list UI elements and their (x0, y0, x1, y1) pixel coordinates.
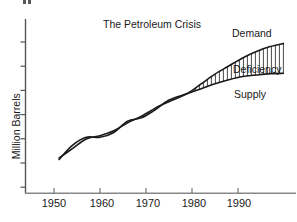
x-axis-ticks (54, 188, 238, 193)
demand-curve (59, 43, 284, 158)
demand-series-label: Demand (232, 28, 272, 39)
x-tick-label-1990: 1990 (222, 198, 256, 209)
petroleum-crisis-chart-figure: The Petroleum Crisis Million Barrels 195… (0, 0, 297, 222)
x-tick-label-1970: 1970 (131, 198, 165, 209)
supply-curve (59, 73, 284, 160)
x-tick-label-1960: 1960 (85, 198, 119, 209)
x-tick-label-1980: 1980 (177, 198, 211, 209)
page-title: The Petroleum Crisis (103, 19, 201, 30)
x-tick-label-1950: 1950 (37, 198, 71, 209)
deficiency-region-label: Deficiency (233, 64, 281, 75)
supply-series-label: Supply (234, 89, 266, 100)
y-axis-label: Million Barrels (11, 83, 22, 169)
